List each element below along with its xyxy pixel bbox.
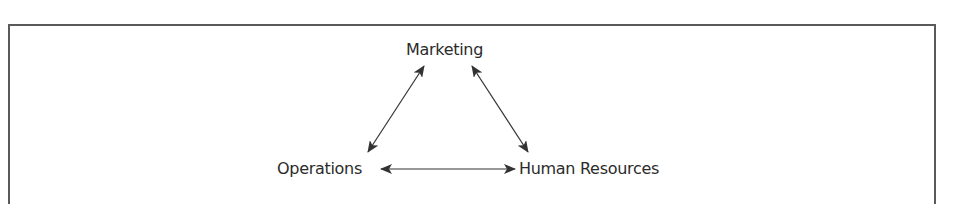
diagram-arrows <box>0 0 954 204</box>
node-marketing: Marketing <box>406 40 483 60</box>
node-human-resources: Human Resources <box>519 159 659 179</box>
arrow-marketing-human-resources <box>472 66 528 152</box>
node-operations: Operations <box>277 159 362 179</box>
arrow-marketing-operations <box>368 66 424 152</box>
